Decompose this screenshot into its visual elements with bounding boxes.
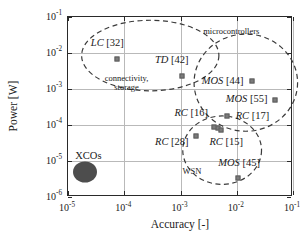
y-tick-label: 10-6 [46,191,62,202]
x-tick-label: 10-1 [284,202,300,213]
data-point-marker[interactable] [272,97,277,102]
x-tick-label: 10-2 [228,202,244,213]
data-point-label: RC [28] [155,137,189,148]
y-axis-tick [68,17,72,18]
y-tick-label: 10-5 [46,155,62,166]
data-point-marker[interactable] [212,124,217,129]
y-tick-label: 10-3 [46,83,62,94]
y-axis-tick [68,161,72,162]
gridline-vertical [124,17,125,195]
data-point-marker[interactable] [235,176,240,181]
y-axis-tick [68,89,72,90]
y-axis-tick [287,197,291,198]
y-axis-tick [287,161,291,162]
x-axis-tick [124,191,125,195]
data-point-marker[interactable] [224,114,229,119]
x-tick-label: 10-4 [115,202,131,213]
x-tick-label: 10-3 [172,202,188,213]
y-tick-label: 10-2 [46,47,62,58]
x-axis-tick [68,191,69,195]
data-point-marker[interactable] [179,73,184,78]
xcos-blob[interactable] [73,161,97,182]
y-axis-title: Power [W] [7,81,19,132]
gridline-horizontal [68,89,291,90]
y-axis-tick [287,17,291,18]
y-axis-tick [68,53,72,54]
y-axis-tick [287,89,291,90]
xcos-label: XCOs [75,151,101,162]
data-point-label: MOS [44] [202,76,244,87]
cluster-label-WSN: WSN [183,167,202,176]
y-axis-tick [287,125,291,126]
data-point-label: RC [15] [209,137,243,148]
data-point-marker[interactable] [218,127,223,132]
y-tick-label: 10-1 [46,11,62,22]
x-axis-tick [124,17,125,21]
x-axis-tick [237,17,238,21]
data-point-marker[interactable] [115,56,120,61]
y-axis-tick [287,53,291,54]
data-point-label: RC [16] [174,107,208,118]
y-axis-tick [68,197,72,198]
gridline-vertical [237,17,238,195]
data-point-label: MOS [45] [218,157,260,168]
y-axis-tick [68,125,72,126]
plot-area: LC [32]TD [42]MOS [44]MOS [55]RC [17]RC … [67,16,292,196]
gridline-horizontal [68,125,291,126]
x-axis-tick [293,191,294,195]
x-axis-tick [181,17,182,21]
cluster-label-connectivity-storage: connectivity,storage [105,74,149,92]
figure: Power [W] Accuracy [-] 10-110-210-310-41… [0,0,308,241]
x-axis-tick [293,17,294,21]
data-point-label: MOS [55] [226,94,268,105]
gridline-vertical [293,17,294,195]
data-point-label: TD [42] [155,55,189,66]
y-tick-label: 10-4 [46,119,62,130]
x-axis-tick [181,191,182,195]
data-point-label: RC [17] [236,111,270,122]
x-axis-tick [237,191,238,195]
data-point-marker[interactable] [250,79,255,84]
x-tick-label: 10-5 [59,202,75,213]
data-point-label: LC [32] [91,38,124,49]
cluster-label-microcontrollers: microcontrollers [203,26,259,35]
x-axis-title: Accuracy [-] [151,218,209,230]
data-point-marker[interactable] [194,134,199,139]
cluster-ellipse-connectivity-storage [82,20,219,91]
